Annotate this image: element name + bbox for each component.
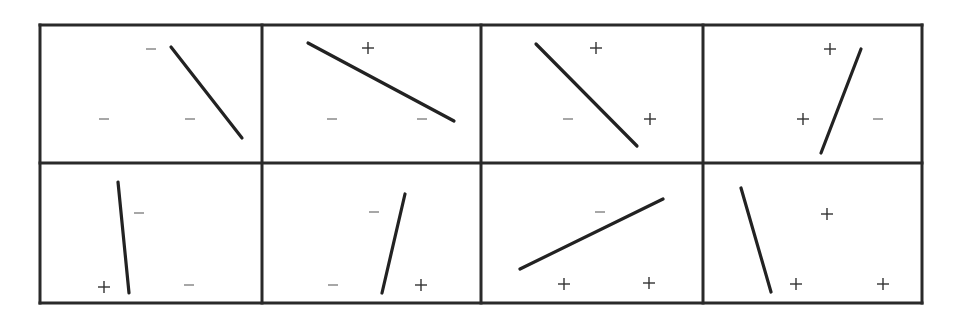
plus-icon	[821, 208, 833, 220]
plus-icon	[362, 42, 374, 54]
plus-icon	[877, 278, 889, 290]
plus-icon	[590, 42, 602, 54]
panel-r1-c0	[98, 182, 194, 293]
plus-icon	[98, 281, 110, 293]
panel-r0-c1	[308, 42, 454, 121]
oriented-line-segment	[741, 188, 771, 292]
panel-r0-c3	[797, 43, 883, 153]
oriented-line-segment	[118, 182, 129, 293]
plus-icon	[643, 277, 655, 289]
plus-icon	[824, 43, 836, 55]
plus-icon	[415, 279, 427, 291]
oriented-line-segment	[536, 44, 637, 146]
plus-icon	[558, 278, 570, 290]
panel-r1-c2	[520, 199, 663, 290]
panel-grid	[40, 25, 922, 303]
oriented-line-segment	[171, 47, 242, 138]
panel-r1-c3	[741, 188, 889, 292]
oriented-line-segment	[382, 194, 405, 293]
plus-icon	[644, 113, 656, 125]
panel-r0-c2	[536, 42, 656, 146]
panel-r0-c0	[99, 47, 242, 138]
panel-r1-c1	[328, 194, 427, 293]
panels	[98, 42, 889, 293]
plus-icon	[790, 278, 802, 290]
oriented-line-segment	[308, 43, 454, 121]
oriented-line-segment	[821, 49, 861, 153]
plus-icon	[797, 113, 809, 125]
oriented-line-segment	[520, 199, 663, 269]
sign-pattern-grid-diagram	[0, 0, 960, 314]
